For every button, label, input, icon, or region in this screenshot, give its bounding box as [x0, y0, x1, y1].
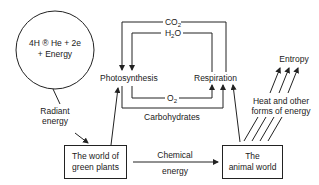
- co2-main: CO: [165, 17, 178, 27]
- green-plants-line2: green plants: [72, 162, 119, 173]
- chemical-energy-line1: Chemical: [150, 150, 200, 160]
- entropy-label: Entropy: [276, 54, 312, 64]
- respiration-label: Respiration: [194, 73, 244, 83]
- radiant-energy-line1: Radiant: [30, 106, 80, 116]
- energy-flow-diagram: 4H ® He + 2e + Energy Radiant energy Pho…: [0, 0, 319, 185]
- animal-world-box: The animal world: [222, 145, 283, 179]
- heat-line2: forms of energy: [246, 106, 316, 116]
- h2o-label: H2O: [162, 28, 184, 41]
- heat-line1: Heat and other: [246, 96, 316, 106]
- o2-main: O: [167, 93, 174, 103]
- o2-label: O2: [165, 93, 179, 106]
- carbohydrates-label: Carbohydrates: [140, 112, 204, 122]
- h2o-o: O: [174, 28, 181, 38]
- sun-reaction-line1: 4H ® He + 2e: [16, 38, 94, 49]
- radiant-energy-line2: energy: [30, 116, 80, 126]
- green-plants-box: The world of green plants: [64, 145, 127, 179]
- sun-reaction-label: 4H ® He + 2e + Energy: [16, 38, 94, 60]
- photosynthesis-label: Photosynthesis: [100, 73, 168, 83]
- animal-world-line2: animal world: [229, 162, 277, 173]
- o2-sub: 2: [174, 98, 177, 104]
- green-plants-line1: The world of: [72, 151, 119, 162]
- chemical-energy-line2: energy: [150, 166, 200, 176]
- animal-world-line1: The: [245, 151, 260, 162]
- radiant-energy-label: Radiant energy: [30, 106, 80, 126]
- sun-reaction-line2: + Energy: [16, 49, 94, 60]
- heat-energy-label: Heat and other forms of energy: [246, 96, 316, 116]
